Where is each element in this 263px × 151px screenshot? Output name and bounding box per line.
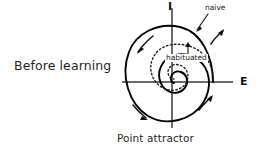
flow-arrows <box>133 29 224 120</box>
condition-label: Before learning <box>14 60 111 73</box>
flow-arrow-lower-left <box>133 105 148 120</box>
flow-arrow-upper-left <box>137 36 153 54</box>
flow-arrow-upper-right <box>211 29 224 44</box>
horizontal-axis-label: E <box>240 76 248 87</box>
naive-leader-path <box>197 14 208 30</box>
naive-leader-line <box>196 14 208 32</box>
habituated-trajectory-label: habituated <box>165 54 208 62</box>
vertical-axis-label: I <box>168 1 172 12</box>
flow-arrow-upper-left-head <box>137 47 144 54</box>
naive-trajectory-label: naive <box>205 4 226 12</box>
phase-portrait-diagram <box>0 0 263 151</box>
naive-spiral-path <box>125 26 213 122</box>
habituated-pointer-head <box>185 42 191 47</box>
figure-caption: Point attractor <box>117 133 194 144</box>
figure-canvas: Before learning Point attractor naive ha… <box>0 0 263 151</box>
flow-arrow-lower-left-shaft <box>133 105 146 118</box>
naive-trajectory <box>125 26 213 122</box>
